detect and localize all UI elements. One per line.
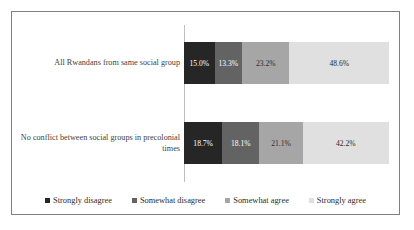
bar-segment-value: 23.2% [256,59,276,68]
bar-segment-value: 13.3% [219,59,239,68]
legend-item-strongly-disagree[interactable]: Strongly disagree [45,196,112,205]
legend-label: Somewhat agree [233,196,289,205]
chart-frame: All Rwandans from same social group 15.0… [11,11,400,215]
chart-row: No conflict between social groups in pre… [12,122,399,164]
stacked-bar: 18.7% 18.1% 21.1% 42.2% [184,122,389,164]
legend-swatch-icon [132,198,137,203]
bar-segment-strongly-agree[interactable]: 42.2% [303,122,389,164]
bar-segment-somewhat-disagree[interactable]: 18.1% [222,122,259,164]
chart-legend: Strongly disagree Somewhat disagree Some… [12,196,399,205]
bar-segment-value: 18.7% [193,139,213,148]
stacked-bar: 15.0% 13.3% 23.2% 48.6% [184,42,389,84]
bar-segment-somewhat-agree[interactable]: 23.2% [242,42,290,84]
chart-row: All Rwandans from same social group 15.0… [12,42,399,84]
bar-segment-value: 15.0% [190,59,210,68]
legend-swatch-icon [225,198,230,203]
bar-segment-strongly-disagree[interactable]: 15.0% [184,42,215,84]
bar-segment-strongly-disagree[interactable]: 18.7% [184,122,222,164]
legend-label: Somewhat disagree [140,196,205,205]
legend-label: Strongly disagree [53,196,112,205]
category-label: No conflict between social groups in pre… [20,133,180,154]
bar-segment-somewhat-disagree[interactable]: 13.3% [215,42,242,84]
bar-segment-value: 21.1% [271,139,291,148]
category-label: All Rwandans from same social group [20,58,180,69]
legend-item-somewhat-agree[interactable]: Somewhat agree [225,196,289,205]
bar-segment-value: 18.1% [231,139,251,148]
legend-label: Strongly agree [317,196,366,205]
legend-swatch-icon [309,198,314,203]
plot-area: All Rwandans from same social group 15.0… [12,12,399,214]
legend-item-somewhat-disagree[interactable]: Somewhat disagree [132,196,205,205]
legend-item-strongly-agree[interactable]: Strongly agree [309,196,366,205]
bar-segment-value: 42.2% [336,139,356,148]
bar-segment-strongly-agree[interactable]: 48.6% [289,42,389,84]
bar-segment-somewhat-agree[interactable]: 21.1% [259,122,302,164]
bar-segment-value: 48.6% [329,59,349,68]
legend-swatch-icon [45,198,50,203]
